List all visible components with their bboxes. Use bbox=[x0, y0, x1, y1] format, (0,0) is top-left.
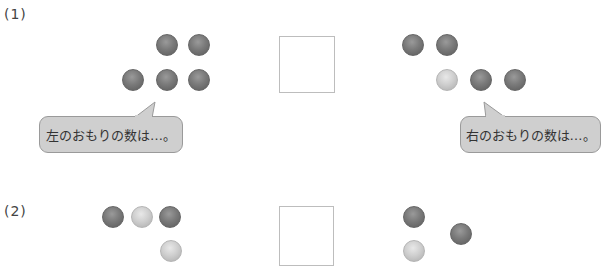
speech-bubble-tail-cover bbox=[476, 112, 512, 120]
dark-weight-ball-icon bbox=[156, 34, 178, 56]
dark-weight-ball-icon bbox=[102, 206, 124, 228]
dark-weight-ball-icon bbox=[122, 69, 144, 91]
problem-2-answer-box[interactable] bbox=[279, 206, 334, 266]
problem-1-answer-box[interactable] bbox=[279, 36, 335, 93]
dark-weight-ball-icon bbox=[159, 206, 181, 228]
speech-bubble-tail-cover bbox=[128, 112, 164, 120]
dark-weight-ball-icon bbox=[402, 34, 424, 56]
dark-weight-ball-icon bbox=[188, 69, 210, 91]
dark-weight-ball-icon bbox=[450, 223, 472, 245]
light-weight-ball-icon bbox=[436, 69, 458, 91]
right-speech-bubble: 右のおもりの数は…。 bbox=[460, 116, 601, 153]
light-weight-ball-icon bbox=[131, 206, 153, 228]
light-weight-ball-icon bbox=[160, 240, 182, 262]
dark-weight-ball-icon bbox=[436, 34, 458, 56]
right-bubble-text: 右のおもりの数は…。 bbox=[466, 125, 596, 144]
problem-2-label: (2) bbox=[4, 203, 27, 219]
dark-weight-ball-icon bbox=[188, 34, 210, 56]
problem-1-label: (1) bbox=[4, 6, 27, 22]
dark-weight-ball-icon bbox=[403, 206, 425, 228]
light-weight-ball-icon bbox=[403, 240, 425, 262]
left-speech-bubble: 左のおもりの数は…。 bbox=[39, 116, 183, 153]
dark-weight-ball-icon bbox=[470, 69, 492, 91]
dark-weight-ball-icon bbox=[156, 69, 178, 91]
left-bubble-text: 左のおもりの数は…。 bbox=[46, 125, 176, 144]
dark-weight-ball-icon bbox=[504, 69, 526, 91]
